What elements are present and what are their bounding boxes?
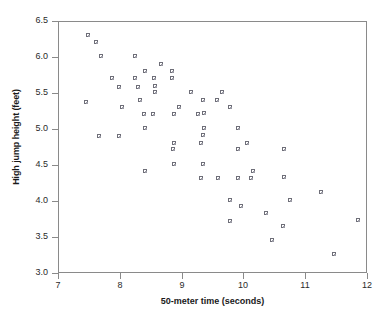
data-point <box>120 105 124 109</box>
data-point-core <box>135 56 137 58</box>
data-point-core <box>204 128 206 130</box>
data-point <box>152 76 156 80</box>
data-point-core <box>99 136 101 138</box>
data-point-core <box>334 254 336 256</box>
y-tick-label: 3.5 <box>20 232 48 241</box>
data-point <box>249 176 253 180</box>
data-point-core <box>230 107 232 109</box>
data-point <box>220 90 224 94</box>
data-point-core <box>284 149 286 151</box>
data-point <box>153 90 157 94</box>
scatter-plot-figure: High jump height (feet) 3.03.54.04.55.05… <box>0 0 391 323</box>
data-point-core <box>230 221 232 223</box>
data-point <box>282 175 286 179</box>
data-point <box>282 147 286 151</box>
data-point-core <box>358 220 360 222</box>
data-point <box>133 54 137 58</box>
data-point-core <box>135 78 137 80</box>
x-tick-label: 11 <box>293 281 317 290</box>
data-point-core <box>88 35 90 37</box>
data-point-core <box>144 114 146 116</box>
data-point-core <box>173 149 175 151</box>
data-point <box>245 141 249 145</box>
data-point <box>319 190 323 194</box>
data-point <box>172 112 176 116</box>
data-point <box>117 134 121 138</box>
data-point <box>170 69 174 73</box>
data-point-core <box>122 107 124 109</box>
data-point <box>159 62 163 66</box>
data-point <box>84 100 88 104</box>
data-point <box>86 33 90 37</box>
data-point-core <box>204 113 206 115</box>
data-point <box>171 147 175 151</box>
data-point <box>142 112 146 116</box>
data-point <box>216 176 220 180</box>
data-point-core <box>198 114 200 116</box>
x-tick-label: 9 <box>170 281 194 290</box>
data-point-core <box>284 177 286 179</box>
data-point <box>201 133 205 137</box>
x-axis-label: 50-meter time (seconds) <box>58 296 367 306</box>
y-tick-label: 6.0 <box>20 52 48 61</box>
data-point-core <box>140 100 142 102</box>
data-point <box>133 76 137 80</box>
data-point <box>143 169 147 173</box>
data-point-core <box>217 100 219 102</box>
y-axis-label-text: High jump height (feet) <box>11 89 21 185</box>
data-point-core <box>172 71 174 73</box>
data-point <box>236 176 240 180</box>
data-point-core <box>153 114 155 116</box>
data-point <box>110 76 114 80</box>
data-point <box>189 90 193 94</box>
data-point-core <box>96 42 98 44</box>
data-point-core <box>272 240 274 242</box>
data-point-core <box>241 206 243 208</box>
data-point <box>201 98 205 102</box>
y-tick-label: 5.0 <box>20 124 48 133</box>
data-point-core <box>238 178 240 180</box>
data-point-core <box>155 86 157 88</box>
data-point-core <box>218 178 220 180</box>
data-point-core <box>86 102 88 104</box>
plot-area <box>58 21 367 273</box>
data-point <box>236 126 240 130</box>
data-point <box>236 147 240 151</box>
data-point <box>215 98 219 102</box>
data-point <box>264 211 268 215</box>
data-point-core <box>251 178 253 180</box>
data-point <box>199 141 203 145</box>
data-point-core <box>112 78 114 80</box>
data-point-core <box>179 107 181 109</box>
data-point-core <box>222 92 224 94</box>
x-tick-mark <box>305 273 306 279</box>
data-point-core <box>203 164 205 166</box>
data-point-core <box>266 213 268 215</box>
data-point <box>228 219 232 223</box>
data-point-core <box>203 100 205 102</box>
x-tick-mark <box>182 273 183 279</box>
data-point <box>99 54 103 58</box>
y-tick-label: 5.5 <box>20 88 48 97</box>
data-point-core <box>247 143 249 145</box>
data-point-core <box>119 136 121 138</box>
data-point-core <box>174 164 176 166</box>
data-point <box>143 69 147 73</box>
data-point <box>117 85 121 89</box>
x-tick-label: 8 <box>108 281 132 290</box>
data-point-core <box>253 171 255 173</box>
data-point-core <box>191 92 193 94</box>
y-tick-label: 6.5 <box>20 16 48 25</box>
x-tick-mark <box>120 273 121 279</box>
x-tick-mark <box>243 273 244 279</box>
data-point <box>201 162 205 166</box>
data-point-core <box>230 200 232 202</box>
data-point <box>281 224 285 228</box>
data-point <box>228 105 232 109</box>
data-point-core <box>154 78 156 80</box>
x-tick-label: 12 <box>355 281 379 290</box>
data-point-core <box>101 56 103 58</box>
y-tick-label: 3.0 <box>20 268 48 277</box>
data-point <box>356 218 360 222</box>
data-point <box>202 126 206 130</box>
